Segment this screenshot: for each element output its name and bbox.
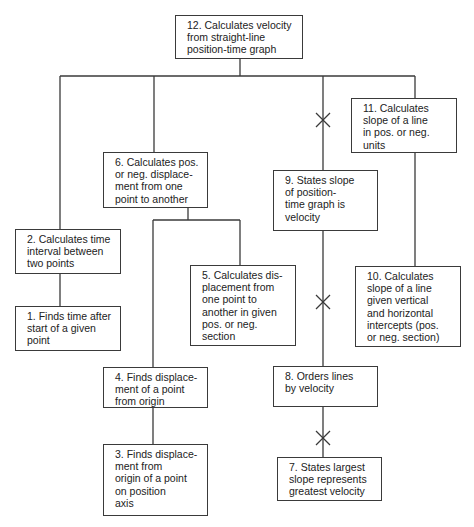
node-2-time-interval: 2. Calculates time interval between two … xyxy=(15,229,121,274)
node-3-displacement-axis: 3. Finds displace- ment from origin of a… xyxy=(103,444,208,516)
node-12-calculates-velocity: 12. Calculates velocity from straight-li… xyxy=(175,15,303,59)
node-6-pos-neg-displacement: 6. Calculates pos. or neg. displace- men… xyxy=(103,152,208,208)
node-7-largest-slope: 7. States largest slope represents great… xyxy=(277,457,382,501)
node-4-displacement-origin: 4. Finds displace- ment of a point from … xyxy=(103,367,208,408)
node-1-finds-time: 1. Finds time after start of a given poi… xyxy=(15,306,121,351)
node-8-orders-lines: 8. Orders lines by velocity xyxy=(273,366,378,407)
node-10-slope-intercepts: 10. Calculates slope of a line given ver… xyxy=(355,266,461,347)
node-5-displacement-section: 5. Calculates dis- placement from one po… xyxy=(190,265,296,346)
node-11-slope-pos-neg-units: 11. Calculates slope of a line in pos. o… xyxy=(351,98,457,153)
node-9-slope-is-velocity: 9. States slope of position- time graph … xyxy=(273,170,378,231)
